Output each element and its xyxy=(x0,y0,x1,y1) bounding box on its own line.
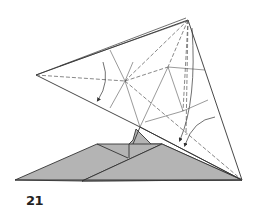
origami-diagram xyxy=(0,0,262,218)
step-number: 21 xyxy=(26,193,43,208)
